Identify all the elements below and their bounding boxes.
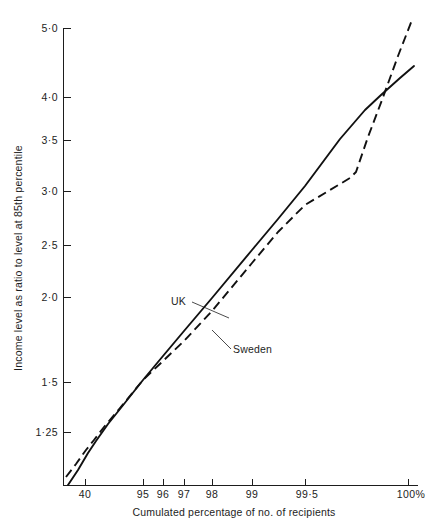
line-chart-canvas: 5·0 4·0 3·5 3·0 2·5 2·0 1·5 1·25 40 95 9… [0,0,443,532]
x-axis-tick-labels: 40 95 96 97 98 99 99·5 100% [79,488,425,500]
x-tick-label-99-5: 99·5 [296,488,319,500]
chart-figure: 5·0 4·0 3·5 3·0 2·5 2·0 1·5 1·25 40 95 9… [0,0,443,532]
x-axis-ticks [86,479,409,486]
y-tick-label-5-0: 5·0 [42,22,58,34]
x-tick-label-100: 100% [397,488,425,500]
x-tick-label-99: 99 [246,488,258,500]
annotation-sweden: Sweden [212,330,272,355]
y-tick-label-1-25: 1·25 [35,426,58,438]
y-tick-label-3-0: 3·0 [42,185,58,197]
annotation-uk: UK [171,295,229,318]
x-tick-label-40: 40 [79,488,91,500]
y-tick-label-1-5: 1·5 [42,376,58,388]
x-axis-title: Cumulated percentage of no. of recipient… [132,506,335,518]
x-tick-label-96: 96 [157,488,169,500]
series-label-sweden: Sweden [233,343,272,355]
y-tick-label-4-0: 4·0 [42,91,58,103]
y-axis-tick-labels: 5·0 4·0 3·5 3·0 2·5 2·0 1·5 1·25 [35,22,58,438]
series-line-sweden [66,20,412,477]
leader-line-sweden [212,330,231,349]
y-axis-title: Income level as ratio to level at 85th p… [12,145,24,371]
x-tick-label-95: 95 [137,488,149,500]
y-axis-ticks [64,29,71,433]
series-label-uk: UK [171,295,186,307]
x-tick-label-98: 98 [206,488,218,500]
y-tick-label-2-5: 2·5 [42,239,58,251]
y-tick-label-3-5: 3·5 [42,134,58,146]
x-tick-label-97: 97 [178,488,190,500]
y-tick-label-2-0: 2·0 [42,291,58,303]
